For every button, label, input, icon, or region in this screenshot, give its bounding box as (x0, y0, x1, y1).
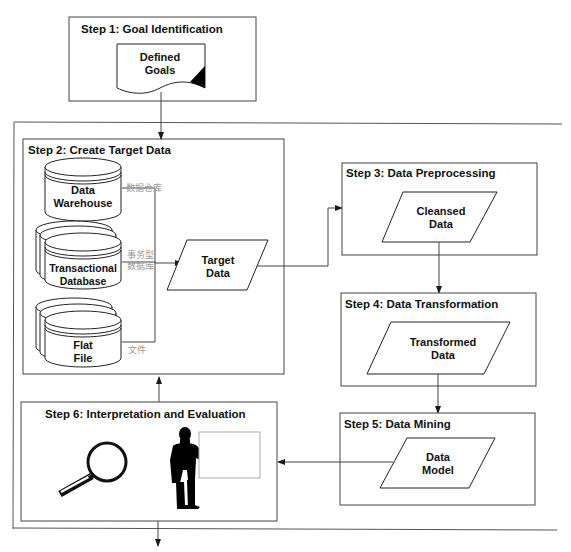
transformed-data-line2: Data (393, 349, 493, 362)
step1-title: Step 1: Goal Identification (81, 24, 223, 36)
data-warehouse-line1: Data (45, 184, 121, 197)
target-data-label: Target Data (178, 254, 258, 280)
transactional-database-line1: Transactional (45, 262, 121, 275)
defined-goals-line2: Goals (120, 64, 200, 77)
kdd-process-diagram: Step 1: Goal Identification Step 2: Crea… (0, 0, 571, 552)
transformed-data-label: Transformed Data (393, 336, 493, 362)
defined-goals-line1: Defined (120, 51, 200, 64)
target-data-line2: Data (178, 267, 258, 280)
data-warehouse-line2: Warehouse (45, 197, 121, 210)
data-model-label: Data Model (398, 451, 478, 477)
transactional-database-line2: Database (45, 275, 121, 288)
annotation-data-warehouse: 数据仓库 (126, 183, 162, 194)
cleansed-data-label: Cleansed Data (398, 205, 484, 231)
cleansed-data-line2: Data (398, 218, 484, 231)
annotation-transactional-line2: 数据库 (127, 261, 154, 272)
cleansed-data-line1: Cleansed (398, 205, 484, 218)
step2-title: Step 2: Create Target Data (28, 145, 171, 157)
flat-file-label: Flat File (45, 339, 121, 365)
data-model-line1: Data (398, 451, 478, 464)
flat-file-line2: File (45, 352, 121, 365)
presentation-board (199, 432, 260, 478)
step5-title: Step 5: Data Mining (344, 419, 451, 431)
step6-title: Step 6: Interpretation and Evaluation (45, 409, 246, 421)
step4-title: Step 4: Data Transformation (345, 299, 498, 311)
target-data-line1: Target (178, 254, 258, 267)
annotation-flat-file: 文件 (128, 345, 146, 356)
step3-title: Step 3: Data Preprocessing (346, 168, 496, 180)
flat-file-line1: Flat (45, 339, 121, 352)
annotation-transactional-line1: 事务型 (127, 250, 154, 261)
data-warehouse-label: Data Warehouse (45, 184, 121, 210)
transactional-database-label: Transactional Database (45, 262, 121, 288)
annotation-transactional-database: 事务型 数据库 (127, 250, 154, 272)
transformed-data-line1: Transformed (393, 336, 493, 349)
defined-goals-label: Defined Goals (120, 51, 200, 77)
data-model-line2: Model (398, 464, 478, 477)
